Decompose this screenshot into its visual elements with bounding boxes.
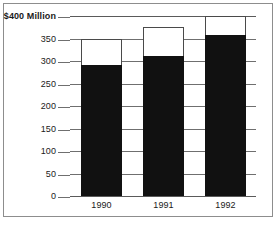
bar-group-1991[interactable]: 1991 — [143, 16, 184, 196]
y-tick-label-350: 350 — [41, 34, 56, 44]
y-tick-mark-400 — [58, 17, 70, 18]
bar-segment-filled-1991[interactable] — [143, 56, 184, 196]
x-tick-label-1992: 1992 — [205, 200, 246, 210]
y-tick-label-250: 250 — [41, 79, 56, 89]
y-tick-mark-350 — [58, 40, 70, 41]
y-tick-mark-250 — [58, 85, 70, 86]
y-tick-mark-150 — [58, 130, 70, 131]
y-tick-label-200: 200 — [41, 101, 56, 111]
y-axis-top-label: $400 Million — [4, 11, 56, 21]
y-tick-mark-200 — [58, 107, 70, 108]
y-tick-label-150: 150 — [41, 124, 56, 134]
x-tick-label-1991: 1991 — [143, 200, 184, 210]
y-tick-label-300: 300 — [41, 56, 56, 66]
y-tick-mark-0 — [58, 197, 70, 198]
y-tick-label-100: 100 — [41, 146, 56, 156]
y-tick-label-0: 0 — [51, 191, 56, 201]
bar-segment-filled-1992[interactable] — [205, 35, 246, 196]
y-tick-label-50: 50 — [46, 169, 56, 179]
bar-chart-figure: $400 Million350300250200150100500 199019… — [0, 0, 277, 227]
x-tick-label-1990: 1990 — [81, 200, 122, 210]
bar-segment-filled-1990[interactable] — [81, 65, 122, 196]
y-tick-mark-300 — [58, 62, 70, 63]
plot-area: $400 Million350300250200150100500 199019… — [70, 16, 256, 196]
bar-group-1992[interactable]: 1992 — [205, 16, 246, 196]
y-tick-mark-50 — [58, 175, 70, 176]
bar-group-1990[interactable]: 1990 — [81, 16, 122, 196]
gridline-0 — [70, 196, 256, 197]
y-tick-mark-100 — [58, 152, 70, 153]
